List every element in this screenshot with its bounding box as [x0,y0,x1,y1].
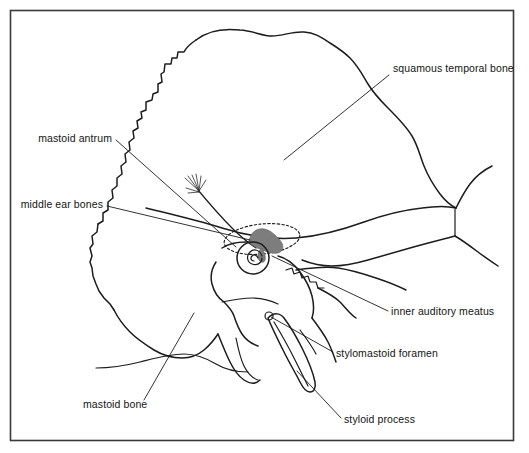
label-stylomastoid-foramen: stylomastoid foramen [336,347,438,359]
label-inner-auditory-meatus: inner auditory meatus [391,305,494,317]
label-squamous-temporal-bone: squamous temporal bone [393,62,514,74]
diagram-canvas: squamous temporal bone mastoid antrum mi… [0,0,529,453]
anatomical-figure: squamous temporal bone mastoid antrum mi… [0,0,529,453]
label-styloid-process: styloid process [344,413,415,425]
label-mastoid-antrum: mastoid antrum [38,132,112,144]
label-middle-ear-bones: middle ear bones [21,198,103,210]
label-mastoid-bone: mastoid bone [83,398,147,410]
figure-border [11,11,514,441]
